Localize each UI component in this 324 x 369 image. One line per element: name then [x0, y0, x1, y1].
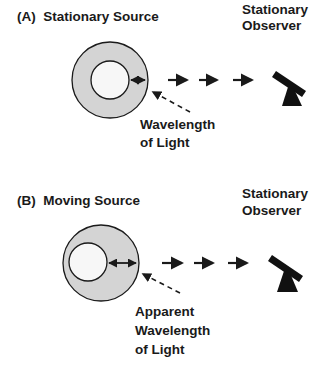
- callout-dashed-arrow: [153, 92, 190, 112]
- observer-label-b-line1: Stationary: [242, 186, 308, 202]
- observer-label-a-line2: Observer: [242, 18, 301, 34]
- observer-label-b-line2: Observer: [242, 203, 301, 219]
- telescope-icon: [272, 71, 306, 106]
- panel-b-title: (B) Moving Source: [17, 193, 140, 209]
- callout-label-b-line2: Wavelength: [135, 323, 210, 339]
- panel-a-title: (A) Stationary Source: [17, 9, 159, 25]
- telescope-icon: [268, 255, 303, 292]
- callout-dashed-arrow: [143, 274, 180, 293]
- callout-label-b-line3: of Light: [135, 342, 184, 358]
- callout-label-a-line1: Wavelength: [140, 117, 215, 133]
- callout-label-b-line1: Apparent: [135, 304, 194, 320]
- observer-label-a-line1: Stationary: [242, 2, 308, 18]
- callout-label-a-line2: of Light: [140, 135, 189, 151]
